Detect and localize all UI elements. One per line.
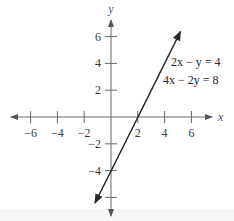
x-tick-label: −4 bbox=[51, 126, 64, 140]
y-tick-label: 2 bbox=[95, 83, 101, 97]
line-lower-half bbox=[95, 117, 138, 203]
y-tick-label: −2 bbox=[88, 137, 101, 151]
y-axis: 6 4 2 −2 −4 y bbox=[88, 2, 117, 216]
y-tick-label: 6 bbox=[95, 30, 101, 44]
x-axis: −6 −4 −2 2 4 6 x bbox=[11, 110, 224, 140]
x-tick-label: −6 bbox=[24, 126, 37, 140]
y-axis-label: y bbox=[107, 2, 114, 16]
y-tick-label: 4 bbox=[95, 56, 101, 70]
equation-label-2: 4x − 2y = 8 bbox=[163, 73, 219, 87]
y-tick-label: −4 bbox=[88, 164, 101, 178]
coordinate-plane: −6 −4 −2 2 4 6 x 6 4 2 −2 −4 y 2x − y = … bbox=[0, 0, 234, 221]
x-tick-label: 4 bbox=[162, 126, 168, 140]
equation-label-1: 2x − y = 4 bbox=[171, 55, 221, 69]
x-tick-label: 6 bbox=[188, 126, 194, 140]
x-axis-label: x bbox=[217, 110, 224, 124]
x-tick-label: 2 bbox=[135, 126, 141, 140]
